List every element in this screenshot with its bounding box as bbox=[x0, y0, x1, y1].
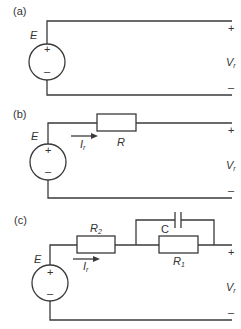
source-plus: + bbox=[47, 266, 53, 278]
panel-a-label: (a) bbox=[13, 5, 26, 17]
panel-c: (c) E + – Ir R2 C R1 + Vr – bbox=[14, 212, 236, 320]
top-wire bbox=[47, 21, 232, 44]
panel-c-label: (c) bbox=[14, 214, 27, 226]
output-minus: – bbox=[228, 81, 235, 93]
output-voltage: Vr bbox=[226, 56, 236, 69]
source-minus: – bbox=[47, 287, 54, 299]
top-wire-left bbox=[48, 123, 97, 144]
source-minus: – bbox=[44, 65, 51, 77]
source-label: E bbox=[31, 130, 39, 142]
current-label: Ir bbox=[83, 260, 89, 273]
output-plus: + bbox=[228, 246, 234, 258]
panel-a: (a) E + – + Vr – bbox=[13, 5, 236, 95]
top-wire-left bbox=[50, 245, 77, 265]
output-voltage: Vr bbox=[226, 159, 236, 172]
arrowhead-icon bbox=[93, 256, 100, 262]
resistor-r1-label: R1 bbox=[173, 255, 185, 268]
panel-b: (b) E + – Ir R + Vr – bbox=[13, 108, 236, 198]
bottom-wire bbox=[50, 301, 232, 320]
capacitor-label: C bbox=[161, 223, 169, 235]
resistor-icon bbox=[97, 114, 136, 131]
resistor-r1-icon bbox=[159, 236, 198, 253]
output-plus: + bbox=[228, 124, 234, 136]
resistor-r2-icon bbox=[77, 236, 115, 253]
panel-b-label: (b) bbox=[13, 108, 26, 120]
source-label: E bbox=[34, 253, 42, 265]
source-minus: – bbox=[45, 165, 52, 177]
resistor-r2-label: R2 bbox=[90, 222, 102, 235]
source-label: E bbox=[30, 29, 38, 41]
source-plus: + bbox=[45, 144, 51, 156]
bottom-wire bbox=[48, 180, 232, 198]
circuit-diagrams: (a) E + – + Vr – (b) E + – Ir R + Vr – (… bbox=[0, 0, 241, 329]
output-minus: – bbox=[228, 184, 235, 196]
arrowhead-icon bbox=[91, 133, 98, 139]
resistor-label: R bbox=[117, 136, 125, 148]
current-label: Ir bbox=[80, 138, 86, 151]
output-plus: + bbox=[228, 22, 234, 34]
bottom-wire bbox=[47, 80, 232, 95]
source-plus: + bbox=[44, 43, 50, 55]
output-voltage: Vr bbox=[226, 281, 236, 294]
output-minus: – bbox=[228, 306, 235, 318]
